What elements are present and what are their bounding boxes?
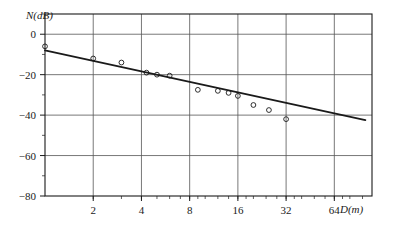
grid-layer bbox=[45, 14, 372, 196]
plot-frame bbox=[45, 14, 372, 196]
data-point bbox=[267, 108, 272, 113]
y-tick-label: −40 bbox=[19, 109, 37, 121]
y-tick-label: −60 bbox=[19, 150, 37, 162]
x-tick-label: 4 bbox=[139, 204, 145, 216]
y-tick-label: −20 bbox=[19, 69, 37, 81]
axis-tick-labels: 2481632640−20−40−60−80 bbox=[19, 28, 341, 216]
data-point bbox=[215, 88, 220, 93]
chart-figure: 2481632640−20−40−60−80 N(dB) D(m) bbox=[0, 0, 393, 227]
y-axis-title: N(dB) bbox=[25, 9, 53, 22]
data-point bbox=[119, 60, 124, 65]
data-point bbox=[195, 87, 200, 92]
data-point bbox=[251, 103, 256, 108]
data-point-markers bbox=[43, 44, 289, 122]
y-tick-label: −80 bbox=[19, 190, 37, 202]
y-tick-label: 0 bbox=[31, 28, 37, 40]
x-tick-label: 8 bbox=[187, 204, 193, 216]
tick-marks-layer bbox=[40, 14, 363, 201]
x-tick-label: 2 bbox=[90, 204, 96, 216]
x-tick-label: 32 bbox=[281, 204, 292, 216]
x-tick-label: 16 bbox=[232, 204, 244, 216]
x-tick-label: 64 bbox=[329, 204, 341, 216]
x-axis-title: D(m) bbox=[339, 203, 364, 216]
